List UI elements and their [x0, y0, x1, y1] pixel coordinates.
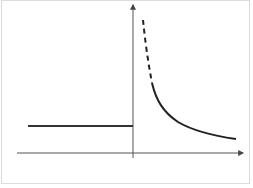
diagram-canvas — [0, 0, 253, 188]
function-graph — [0, 0, 253, 188]
decay-curve — [152, 83, 236, 139]
asymptote-dashed-part — [143, 20, 152, 83]
